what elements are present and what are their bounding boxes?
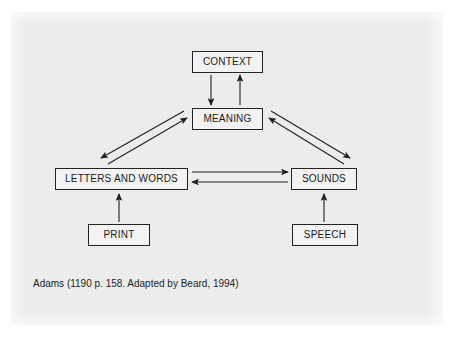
edge-sounds-to-meaning [269, 118, 344, 164]
node-speech: SPEECH [292, 224, 358, 246]
node-letters-and-words-label: LETTERS AND WORDS [63, 174, 180, 184]
node-speech-label: SPEECH [302, 230, 348, 240]
node-print-label: PRINT [102, 230, 137, 240]
node-context-label: CONTEXT [201, 57, 254, 67]
edge-meaning-to-sounds [271, 111, 350, 158]
figure-caption: Adams (1190 p. 158. Adapted by Beard, 19… [33, 277, 239, 290]
node-sounds-label: SOUNDS [300, 174, 348, 184]
node-context: CONTEXT [192, 51, 263, 73]
node-print: PRINT [88, 224, 150, 246]
figure-root: CONTEXT MEANING LETTERS AND WORDS SOUNDS… [0, 0, 457, 343]
node-letters-and-words: LETTERS AND WORDS [55, 168, 188, 190]
node-meaning-label: MEANING [201, 114, 253, 124]
node-meaning: MEANING [192, 108, 263, 130]
edge-letters-to-meaning [108, 118, 187, 164]
edge-meaning-to-letters [101, 111, 184, 158]
node-sounds: SOUNDS [291, 168, 357, 190]
